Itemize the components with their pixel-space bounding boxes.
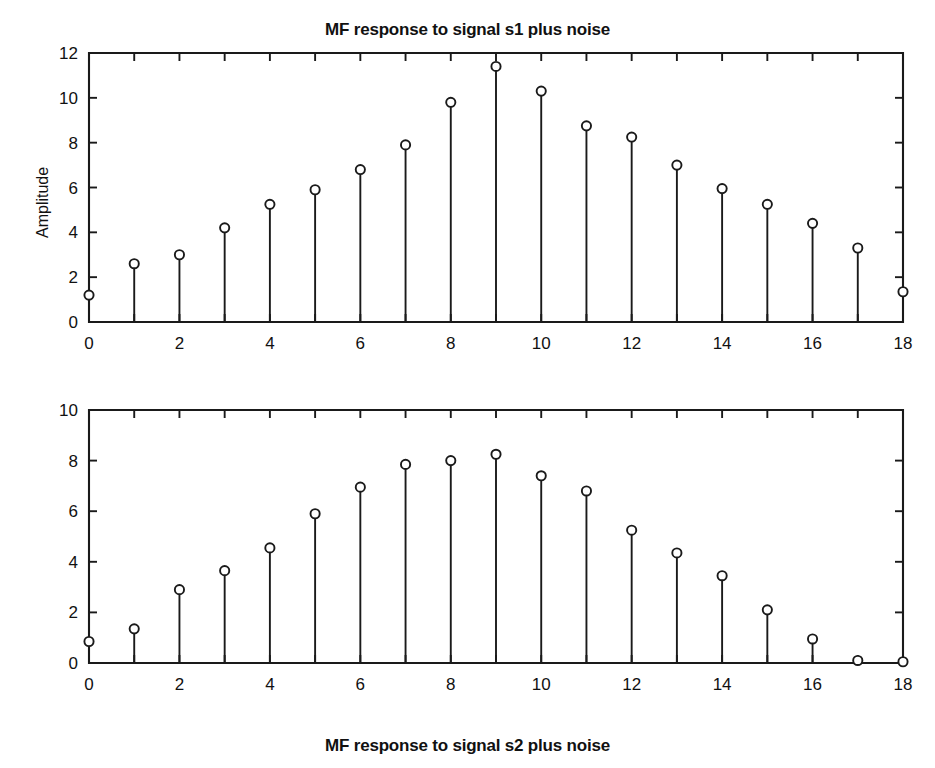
stem-marker [265, 543, 274, 552]
stem-marker [672, 548, 681, 557]
stem-marker [808, 634, 817, 643]
figure-canvas: MF response to signal s1 plus noise Ampl… [0, 0, 935, 768]
plot-area-s2: 0246810121416180246810 [0, 358, 935, 768]
stem-series [84, 62, 907, 322]
y-axis-tick-label: 10 [59, 89, 78, 108]
x-axis-tick-label: 6 [356, 675, 365, 694]
stem-marker [446, 456, 455, 465]
stem-marker [582, 486, 591, 495]
x-axis-tick-label: 8 [446, 334, 455, 353]
stem-marker [84, 291, 93, 300]
x-axis-tick-label: 2 [175, 675, 184, 694]
x-axis-tick-label: 6 [356, 334, 365, 353]
y-axis-tick-label: 8 [69, 452, 78, 471]
x-axis-tick-label: 0 [84, 334, 93, 353]
x-axis-tick-label: 14 [713, 334, 732, 353]
x-axis-tick-label: 18 [894, 675, 913, 694]
x-axis-tick-label: 16 [803, 334, 822, 353]
stem-marker [356, 165, 365, 174]
stem-marker [808, 219, 817, 228]
stem-marker [175, 585, 184, 594]
stem-marker [672, 160, 681, 169]
y-axis-tick-label: 4 [69, 553, 78, 572]
x-axis-tick-label: 16 [803, 675, 822, 694]
stem-marker [220, 566, 229, 575]
x-axis-tick-label: 8 [446, 675, 455, 694]
x-axis-tick-label: 4 [265, 334, 274, 353]
stem-marker [356, 483, 365, 492]
stem-marker [401, 140, 410, 149]
stem-marker [175, 250, 184, 259]
plot-area-s1: 024681012141618024681012 [0, 0, 935, 380]
stem-marker [537, 471, 546, 480]
stem-marker [401, 460, 410, 469]
stem-marker [491, 450, 500, 459]
y-axis-tick-label: 2 [69, 268, 78, 287]
chart-panel-s2: MF response to signal s2 plus noise Ampl… [0, 358, 935, 768]
y-axis-tick-label: 6 [69, 179, 78, 198]
stem-marker [898, 287, 907, 296]
stem-series [84, 450, 907, 667]
y-axis-tick-label: 10 [59, 401, 78, 420]
stem-marker [763, 200, 772, 209]
stem-marker [718, 184, 727, 193]
stem-marker [311, 185, 320, 194]
stem-marker [130, 259, 139, 268]
y-axis-tick-label: 6 [69, 502, 78, 521]
stem-marker [311, 509, 320, 518]
stem-marker [446, 98, 455, 107]
x-axis-tick-label: 10 [532, 675, 551, 694]
y-axis-tick-label: 0 [69, 654, 78, 673]
y-axis-tick-label: 0 [69, 313, 78, 332]
stem-marker [853, 243, 862, 252]
stem-marker [718, 571, 727, 580]
chart-panel-s1: MF response to signal s1 plus noise Ampl… [0, 0, 935, 380]
x-axis-tick-label: 2 [175, 334, 184, 353]
stem-marker [853, 656, 862, 665]
x-axis-tick-label: 0 [84, 675, 93, 694]
stem-marker [537, 87, 546, 96]
stem-marker [130, 624, 139, 633]
stem-marker [627, 526, 636, 535]
x-axis-tick-label: 12 [622, 334, 641, 353]
stem-marker [898, 657, 907, 666]
x-axis-tick-label: 10 [532, 334, 551, 353]
stem-marker [220, 223, 229, 232]
y-axis-tick-label: 2 [69, 603, 78, 622]
y-axis-tick-label: 4 [69, 223, 78, 242]
y-axis-tick-label: 12 [59, 44, 78, 63]
x-axis-tick-label: 4 [265, 675, 274, 694]
y-axis-tick-label: 8 [69, 134, 78, 153]
stem-marker [265, 200, 274, 209]
stem-marker [84, 637, 93, 646]
stem-marker [627, 132, 636, 141]
stem-marker [582, 121, 591, 130]
stem-marker [763, 605, 772, 614]
x-axis-tick-label: 12 [622, 675, 641, 694]
stem-marker [491, 62, 500, 71]
x-axis-tick-label: 14 [713, 675, 732, 694]
x-axis-tick-label: 18 [894, 334, 913, 353]
